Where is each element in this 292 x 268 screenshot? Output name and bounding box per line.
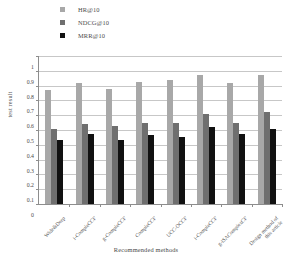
- x-axis-label: g-CompleCCF: [100, 215, 127, 242]
- x-axis-label: i-CompleCCF: [192, 215, 218, 241]
- bar-group: [45, 56, 63, 204]
- bar-group: [197, 56, 215, 204]
- x-tickmark: [221, 204, 222, 207]
- y-axis-tick-label: 0.5: [27, 139, 34, 145]
- bar: [270, 129, 276, 204]
- legend-item-label: HR@10: [78, 6, 100, 13]
- legend-item: NDCG@10: [60, 16, 180, 29]
- bar: [209, 127, 215, 204]
- y-axis-tick-label: 0.3: [27, 169, 34, 175]
- y-axis-title: test result: [6, 75, 13, 135]
- x-tickmark: [161, 204, 162, 207]
- bar: [239, 134, 245, 204]
- bar-group: [106, 56, 124, 204]
- x-axis-title: Recommended methods: [0, 246, 292, 253]
- y-axis-tick-labels: 10.90.80.70.60.50.40.30.20.10: [18, 56, 36, 204]
- bar: [57, 140, 63, 204]
- bar-chart-figure: HR@10NDCG@10MRR@10 test result 10.90.80.…: [0, 0, 292, 268]
- chart-legend: HR@10NDCG@10MRR@10: [60, 3, 180, 42]
- legend-swatch-icon: [60, 20, 65, 25]
- x-tickmark: [282, 204, 283, 207]
- x-axis-label: g-iSAComplexCF: [217, 215, 249, 247]
- bar-group: [258, 56, 276, 204]
- x-tickmark: [69, 204, 70, 207]
- x-axis-label: Wide&Deep: [43, 215, 67, 239]
- bar-group: [136, 56, 154, 204]
- y-axis-tick-label: 0.1: [27, 198, 34, 204]
- y-axis-tick-label: 0.4: [27, 154, 34, 160]
- bar-group: [227, 56, 245, 204]
- bar: [148, 135, 154, 204]
- legend-swatch-icon: [60, 33, 65, 38]
- y-axis-tick-label: 0.9: [27, 80, 34, 86]
- x-axis-label: i-CompleCCF: [71, 215, 97, 241]
- x-tickmark: [252, 204, 253, 207]
- bar: [118, 140, 124, 204]
- x-axis-label: UCC-OCCF: [165, 215, 188, 238]
- bar: [179, 137, 185, 204]
- y-axis-tick-label: 0.6: [27, 124, 34, 130]
- plot-axes: [38, 56, 282, 205]
- y-axis-tick-label: 0.7: [27, 109, 34, 115]
- x-axis-label: CompleCCF: [134, 215, 158, 239]
- legend-item: HR@10: [60, 3, 180, 16]
- bar-groups: [39, 56, 282, 204]
- bar-group: [76, 56, 94, 204]
- bar: [88, 134, 94, 204]
- y-tickmark: [36, 204, 39, 205]
- y-axis-tick-label: 0.8: [27, 95, 34, 101]
- y-axis-tick-label: 1: [31, 65, 34, 71]
- legend-swatch-icon: [60, 7, 65, 12]
- x-tickmark: [191, 204, 192, 207]
- bar-group: [167, 56, 185, 204]
- x-tickmark: [130, 204, 131, 207]
- plot-area-wrapper: test result 10.90.80.70.60.50.40.30.20.1…: [0, 44, 292, 214]
- y-axis-tick-label: 0: [31, 213, 34, 219]
- legend-item-label: MRR@10: [78, 32, 105, 39]
- x-tickmark: [100, 204, 101, 207]
- y-axis-tick-label: 0.2: [27, 183, 34, 189]
- legend-item-label: NDCG@10: [78, 19, 109, 26]
- legend-item: MRR@10: [60, 29, 180, 42]
